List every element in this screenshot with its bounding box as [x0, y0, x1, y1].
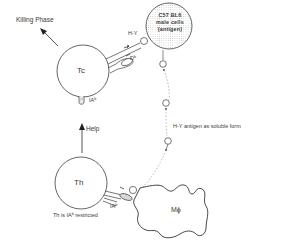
- restriction-note: Th is IAᵇ restricted: [53, 213, 98, 219]
- tc-ia-label: IAᵇ: [89, 98, 96, 104]
- th-receptor-complex: [103, 186, 137, 206]
- macrophage-label: Mϕ: [171, 206, 181, 213]
- killing-phase-label: Killing Phase: [16, 17, 54, 24]
- hy-receptor-label: H-Y: [128, 31, 137, 37]
- help-label: Help: [86, 126, 99, 133]
- tc-receptor-complex: [106, 38, 148, 74]
- soluble-antigen-note: H-Y antigen as soluble form: [173, 124, 241, 130]
- th-label: Th: [74, 179, 83, 187]
- help-arrow: [79, 123, 85, 153]
- db-receptor-label: Dᵇ: [130, 56, 136, 62]
- tc-ia-receptor: [79, 96, 84, 104]
- tc-label: Tc: [77, 67, 85, 75]
- target-cell-line3: (antigen): [151, 27, 189, 32]
- target-cell-line1: C57 BL6: [151, 13, 189, 18]
- killing-phase-arrow: [40, 28, 58, 46]
- th-ia-label: IAᵇ: [110, 204, 117, 210]
- soluble-antigen-path: [142, 50, 171, 188]
- target-cell-line2: male cells: [151, 20, 189, 25]
